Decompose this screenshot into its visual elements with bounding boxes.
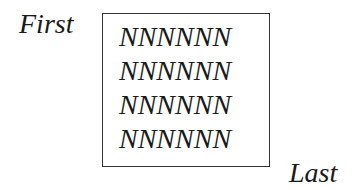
last-label: Last (289, 159, 337, 187)
text-box: NNNNNN NNNNNN NNNNNN NNNNNN (102, 13, 270, 167)
text-line: NNNNNN (119, 54, 231, 88)
text-line: NNNNNN (119, 88, 231, 122)
text-line: NNNNNN (119, 122, 231, 156)
first-label: First (19, 10, 73, 38)
text-lines: NNNNNN NNNNNN NNNNNN NNNNNN (119, 20, 231, 156)
text-line: NNNNNN (119, 20, 231, 54)
